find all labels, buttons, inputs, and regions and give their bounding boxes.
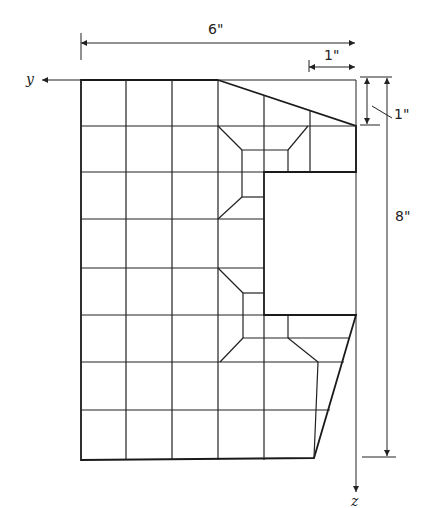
dimension-right-offset: 1" xyxy=(360,77,409,125)
right-offset-label: 1" xyxy=(394,106,409,122)
dimension-width: 6" xyxy=(81,21,355,60)
top-offset-label: 1" xyxy=(324,47,339,63)
mesh-grid xyxy=(81,80,356,460)
dimension-top-offset: 1" xyxy=(309,47,355,72)
dimension-height: 8" xyxy=(362,78,410,457)
height-label: 8" xyxy=(395,208,410,224)
y-axis-label: y xyxy=(25,71,35,87)
width-label: 6" xyxy=(208,21,223,37)
fe-mesh-diagram: 6" 1" 1" 8" y z xyxy=(0,0,425,508)
z-axis-label: z xyxy=(350,493,359,508)
